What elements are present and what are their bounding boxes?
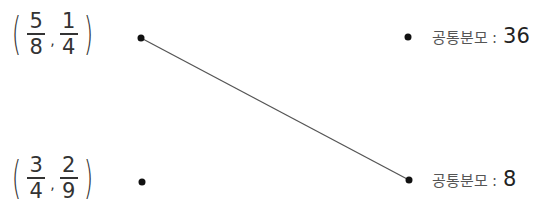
left-dot-1[interactable] [139,179,146,186]
label-text: 공통분모 [432,169,488,190]
colon: : [492,172,497,190]
fraction: 1 4 [60,10,78,58]
right-dot-1[interactable] [406,177,413,184]
colon: : [492,29,497,47]
right-item-0: 공통분모 : 36 [432,24,530,48]
numerator: 2 [62,154,75,176]
comma: , [50,32,54,48]
numerator: 5 [29,10,42,32]
value: 36 [503,24,530,48]
denominator: 4 [29,180,42,202]
fraction: 3 4 [27,154,45,202]
numerator: 3 [29,154,42,176]
left-item-0: ( 5 8 , 1 4 ) [8,10,97,58]
fraction: 5 8 [27,10,45,58]
value: 8 [503,167,516,191]
fraction: 2 9 [60,154,78,202]
denominator: 4 [62,36,75,58]
connection-line [141,38,409,180]
right-paren: ) [83,12,92,56]
left-paren: ( [12,156,21,200]
comma: , [50,176,54,192]
left-paren: ( [12,12,21,56]
left-item-1: ( 3 4 , 2 9 ) [8,154,97,202]
denominator: 9 [62,180,75,202]
left-dot-0[interactable] [138,35,145,42]
numerator: 1 [62,10,75,32]
label-text: 공통분모 [432,26,488,47]
right-paren: ) [83,156,92,200]
right-dot-0[interactable] [405,34,412,41]
right-item-1: 공통분모 : 8 [432,167,516,191]
denominator: 8 [29,36,42,58]
